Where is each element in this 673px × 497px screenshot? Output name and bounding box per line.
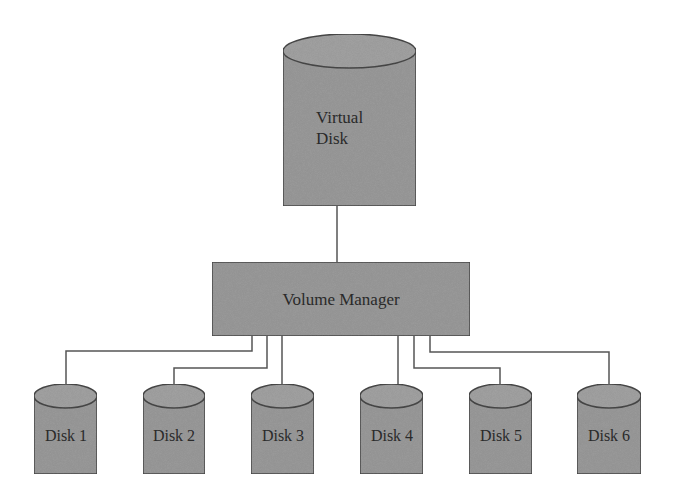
disk-2: Disk 2 bbox=[143, 384, 205, 474]
disk-4-label: Disk 4 bbox=[371, 427, 413, 444]
disk-6-label: Disk 6 bbox=[588, 427, 630, 444]
disk-1-label: Disk 1 bbox=[45, 427, 87, 444]
disk-6: Disk 6 bbox=[577, 384, 641, 474]
disk-2-label: Disk 2 bbox=[153, 427, 195, 444]
disk-1: Disk 1 bbox=[34, 384, 97, 474]
disk-5-label: Disk 5 bbox=[480, 427, 522, 444]
disk-connectors bbox=[66, 336, 609, 384]
disk-3: Disk 3 bbox=[251, 384, 314, 474]
connector-disk-5 bbox=[414, 336, 500, 384]
volume-manager-label: Volume Manager bbox=[282, 290, 400, 309]
virtual-disk-label-line2: Disk bbox=[316, 129, 349, 148]
connector-disk-2 bbox=[174, 336, 267, 384]
connector-disk-1 bbox=[66, 336, 252, 384]
disk-3-label: Disk 3 bbox=[262, 427, 304, 444]
virtual-disk-label-line1: Virtual bbox=[316, 108, 363, 127]
disk-4: Disk 4 bbox=[360, 384, 423, 474]
connector-disk-6 bbox=[430, 336, 609, 384]
disk-5: Disk 5 bbox=[469, 384, 532, 474]
storage-diagram: Virtual Disk Volume Manager Disk 1 Disk … bbox=[0, 0, 673, 497]
